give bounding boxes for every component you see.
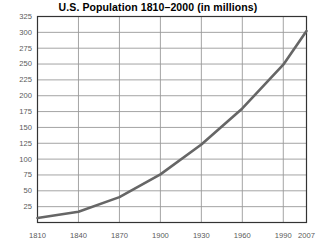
y-tick-label: 50 [2, 186, 32, 195]
population-data-line [38, 31, 307, 218]
y-tick-label: 125 [2, 139, 32, 148]
x-tick-label: 1840 [60, 231, 96, 240]
y-tick-label: 325 [2, 12, 32, 21]
x-tick-label: 1930 [183, 231, 219, 240]
y-tick-label: 100 [2, 155, 32, 164]
y-tick-label: 150 [2, 123, 32, 132]
x-tick-label: 1810 [20, 231, 56, 240]
plot-area [0, 0, 316, 245]
y-tick-label: 25 [2, 202, 32, 211]
y-tick-label: 175 [2, 107, 32, 116]
population-line-chart: U.S. Population 1810–2000 (in millions) … [0, 0, 316, 245]
x-tick-label: 1870 [101, 231, 137, 240]
y-tick-label: 300 [2, 28, 32, 37]
y-tick-label: 200 [2, 91, 32, 100]
vertical-gridlines [38, 17, 307, 223]
y-tick-label: 275 [2, 44, 32, 53]
x-tick-label: 1900 [142, 231, 178, 240]
y-tick-label: 75 [2, 170, 32, 179]
x-tick-label: 1960 [224, 231, 260, 240]
y-tick-label: 250 [2, 59, 32, 68]
plot-frame [38, 17, 307, 223]
x-tick-label: 2007 [289, 231, 317, 240]
horizontal-gridlines [38, 17, 307, 207]
y-tick-label: 225 [2, 75, 32, 84]
